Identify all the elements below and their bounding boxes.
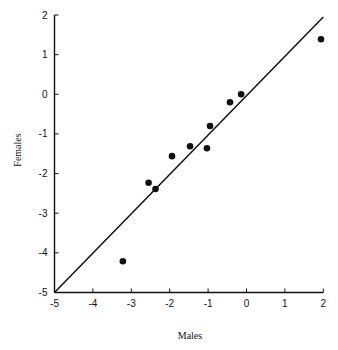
y-axis-title: Females xyxy=(12,133,23,166)
data-point xyxy=(207,123,214,130)
y-tick-label: -5 xyxy=(39,287,48,298)
data-point xyxy=(204,145,211,152)
data-point xyxy=(227,99,234,106)
data-point xyxy=(187,143,194,150)
data-point xyxy=(238,91,245,98)
x-tick-label: 1 xyxy=(282,298,288,309)
data-point xyxy=(145,179,152,186)
y-tick-label: 2 xyxy=(42,10,48,21)
x-tick-label: 2 xyxy=(321,298,327,309)
x-tick-label: 0 xyxy=(244,298,250,309)
chart-canvas: -5-4-3-2-1012 -5-4-3-2-1012 Males Female… xyxy=(0,0,338,350)
y-tick-label: -2 xyxy=(39,168,48,179)
y-tick-label: -4 xyxy=(39,247,48,258)
x-tick-label: -1 xyxy=(204,298,213,309)
data-point xyxy=(169,153,176,160)
data-points xyxy=(120,36,325,265)
y-tick-label: -3 xyxy=(39,208,48,219)
x-axis-ticks: -5-4-3-2-1012 xyxy=(50,289,326,309)
x-axis-title: Males xyxy=(178,330,203,341)
data-point xyxy=(318,36,325,43)
y-tick-label: 1 xyxy=(42,49,48,60)
x-tick-label: -5 xyxy=(50,298,59,309)
scatter-chart: -5-4-3-2-1012 -5-4-3-2-1012 Males Female… xyxy=(0,0,338,350)
identity-line xyxy=(55,17,324,293)
x-tick-label: -3 xyxy=(127,298,136,309)
data-point xyxy=(152,186,159,193)
y-tick-label: 0 xyxy=(42,89,48,100)
data-point xyxy=(120,258,127,265)
y-axis-ticks: -5-4-3-2-1012 xyxy=(39,10,59,299)
fit-line xyxy=(55,17,324,293)
y-tick-label: -1 xyxy=(39,128,48,139)
x-tick-label: -4 xyxy=(88,298,97,309)
x-tick-label: -2 xyxy=(165,298,174,309)
